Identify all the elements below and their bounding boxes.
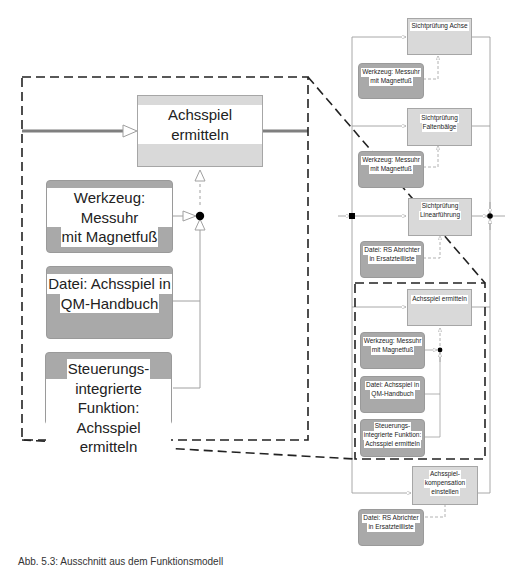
junction-dot-right <box>487 213 493 219</box>
resource-label: mit Magnetfuß <box>371 346 415 355</box>
function-sichtpruefung-achse[interactable]: Sichtprüfung Achse <box>407 18 472 55</box>
function-label: Linearführung <box>419 211 461 220</box>
resource-label: integrierte Funktion: <box>46 379 171 418</box>
detail-junction-dot <box>196 212 204 220</box>
resource-label: mit Magnetfuß <box>61 227 159 247</box>
resource-label: mit Magnetfuß <box>369 77 413 86</box>
function-label: Achsspiel ermitteln <box>138 105 262 144</box>
resource-rs-abrichter-2[interactable]: Datei: RS Abrichter in Ersatzteilliste <box>358 509 424 546</box>
function-sichtpruefung-faltenbaelge[interactable]: Sichtprüfung Faltenbälge <box>407 108 472 146</box>
function-label: Achsspiel ermitteln <box>411 295 468 304</box>
resource-messuhr-3[interactable]: Werkzeug: Messuhr mit Magnetfuß <box>360 332 425 369</box>
resource-label: Datei: RS Abrichter <box>362 514 419 523</box>
resource-label: Achsspiel ermitteln <box>364 440 421 449</box>
resource-label: Werkzeug: Messuhr <box>361 156 421 165</box>
detail-resource-qm-handbuch[interactable]: Datei: Achsspiel in QM-Handbuch <box>46 266 173 339</box>
resource-label: Steuerungs- <box>374 422 411 431</box>
resource-label: in Ersatzteilliste <box>367 523 414 532</box>
resource-label: QM-Handbuch <box>370 390 414 399</box>
resource-label: mit Magnetfuß <box>369 165 413 174</box>
resource-label: Datei: RS Abrichter <box>363 246 420 255</box>
resource-label: Werkzeug: Messuhr <box>47 188 172 227</box>
resource-label: in Ersatzteilliste <box>368 255 415 264</box>
function-achsspiel-ermitteln[interactable]: Achsspiel ermitteln <box>407 289 472 326</box>
resource-label: Steuerungs- <box>67 359 151 379</box>
junction-square <box>349 213 355 219</box>
resource-label: Werkzeug: Messuhr <box>363 337 423 346</box>
detail-resource-steuerungsfunktion[interactable]: Steuerungs- integrierte Funktion: Achssp… <box>45 352 172 425</box>
figure-caption: Abb. 5.3: Ausschnitt aus dem Funktionsmo… <box>18 556 223 567</box>
function-label: Sichtprüfung <box>421 202 460 211</box>
detail-resource-messuhr[interactable]: Werkzeug: Messuhr mit Magnetfuß <box>46 180 173 253</box>
function-label: kompensation <box>424 479 466 488</box>
resource-label: Datei: Achsspiel in <box>365 381 420 390</box>
detail-resource-links <box>173 170 205 388</box>
resource-messuhr-2[interactable]: Werkzeug: Messuhr mit Magnetfuß <box>358 151 424 188</box>
resource-label: Werkzeug: Messuhr <box>361 68 421 77</box>
resource-messuhr-1[interactable]: Werkzeug: Messuhr mit Magnetfuß <box>358 63 424 99</box>
function-label: Achsspiel- <box>429 470 461 479</box>
function-label: Sichtprüfung <box>420 114 459 123</box>
overview-f4-resource-links <box>424 350 440 437</box>
detail-function-achsspiel-ermitteln[interactable]: Achsspiel ermitteln <box>137 95 263 167</box>
function-label: Sichtprüfung Achse <box>410 22 468 31</box>
function-label: einstellen <box>430 488 459 497</box>
function-sichtpruefung-linearfuehrung[interactable]: Sichtprüfung Linearführung <box>408 198 472 236</box>
resource-steuerungsintegrierte-funktion[interactable]: Steuerungs- integrierte Funktion: Achssp… <box>360 419 425 457</box>
resource-label: Achsspiel ermitteln <box>46 418 171 457</box>
resource-label: Datei: Achsspiel in <box>47 274 172 294</box>
resource-label: QM-Handbuch <box>60 294 160 314</box>
resource-label: integrierte Funktion: <box>363 431 422 440</box>
junction-dot-f4 <box>438 348 443 353</box>
function-achsspielkompensation-einstellen[interactable]: Achsspiel- kompensation einstellen <box>412 466 478 505</box>
resource-achsspiel-qm-handbuch[interactable]: Datei: Achsspiel in QM-Handbuch <box>360 376 425 413</box>
function-label: Faltenbälge <box>422 123 458 132</box>
resource-rs-abrichter-1[interactable]: Datei: RS Abrichter in Ersatzteilliste <box>360 241 424 278</box>
